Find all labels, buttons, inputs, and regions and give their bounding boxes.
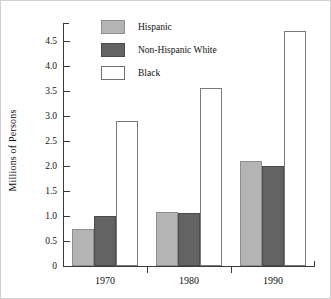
x-axis-right-cap xyxy=(314,261,315,267)
x-tick-label-1970: 1970 xyxy=(95,275,115,286)
bar-1990-black xyxy=(284,31,306,266)
y-tick-label: 3.5 xyxy=(45,86,57,96)
x-axis-separator-tick xyxy=(147,267,148,273)
y-tick-mark xyxy=(64,216,70,217)
legend-swatch xyxy=(101,20,125,34)
legend-label: Black xyxy=(138,68,160,78)
legend-item-hispanic: Hispanic xyxy=(101,15,271,38)
y-tick-label: 2.5 xyxy=(45,136,57,146)
legend-label: Non-Hispanic White xyxy=(138,45,217,55)
y-axis-title: Millions of Persons xyxy=(1,1,23,299)
bar-1970-non-hispanic-white xyxy=(94,216,116,266)
y-tick-label: 4.0 xyxy=(45,61,57,71)
y-tick-label: 4.5 xyxy=(45,36,57,46)
x-tick-label-1990: 1990 xyxy=(263,275,283,286)
y-axis-top-cap xyxy=(63,23,69,24)
legend-item-black: Black xyxy=(101,61,271,84)
y-tick-label: 0.5 xyxy=(45,236,57,246)
legend-swatch xyxy=(101,66,125,80)
y-tick-mark xyxy=(64,241,70,242)
bar-1980-black xyxy=(200,88,222,266)
x-axis-left-cap xyxy=(63,261,64,267)
chart-legend: HispanicNon-Hispanic WhiteBlack xyxy=(101,15,271,84)
y-tick-label: 3.0 xyxy=(45,111,57,121)
bar-1980-hispanic xyxy=(156,212,178,266)
y-tick-mark xyxy=(64,41,70,42)
legend-label: Hispanic xyxy=(138,22,172,32)
legend-item-non-hispanic-white: Non-Hispanic White xyxy=(101,38,271,61)
y-tick-label: 0 xyxy=(52,261,57,271)
bar-1990-non-hispanic-white xyxy=(262,166,284,266)
y-tick-mark xyxy=(64,266,70,267)
y-tick-mark xyxy=(64,116,70,117)
y-tick-mark xyxy=(64,166,70,167)
bar-1980-non-hispanic-white xyxy=(178,213,200,266)
bar-1970-black xyxy=(116,121,138,266)
y-tick-label: 2.0 xyxy=(45,161,57,171)
y-tick-mark xyxy=(64,66,70,67)
x-axis-line xyxy=(63,266,315,267)
x-tick-label-1980: 1980 xyxy=(179,275,199,286)
y-tick-label: 1.5 xyxy=(45,186,57,196)
y-axis-line xyxy=(63,23,64,267)
x-axis-separator-tick xyxy=(231,267,232,273)
chart-figure: Millions of Persons 00.51.01.52.02.53.03… xyxy=(0,0,331,299)
bar-1970-hispanic xyxy=(72,229,94,266)
y-tick-mark xyxy=(64,141,70,142)
legend-swatch xyxy=(101,43,125,57)
y-tick-mark xyxy=(64,91,70,92)
y-tick-mark xyxy=(64,191,70,192)
bar-1990-hispanic xyxy=(240,161,262,266)
y-tick-label: 1.0 xyxy=(45,211,57,221)
